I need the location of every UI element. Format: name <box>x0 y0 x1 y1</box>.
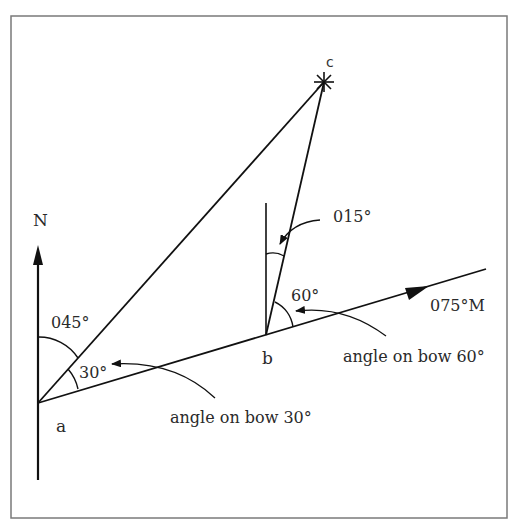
point-c-label: c <box>326 54 334 70</box>
bearing-015-label: 015° <box>333 207 372 226</box>
north-label: N <box>33 210 48 230</box>
course-arrowhead-icon <box>405 286 429 300</box>
angle-60-label: 60° <box>291 286 319 305</box>
target-star-icon <box>314 72 334 92</box>
course-label: 075°M <box>430 296 485 315</box>
arc-015-b <box>266 253 284 256</box>
pointer-015 <box>280 220 320 244</box>
north-arrowhead-icon <box>33 245 43 265</box>
navigation-diagram: N c a b 045° 30° 015° 60° 075°M angle on… <box>0 0 519 529</box>
point-b-label: b <box>262 348 273 368</box>
angle-on-bow-60-label: angle on bow 60° <box>343 347 485 366</box>
arc-045 <box>38 337 78 358</box>
angle-30-label: 30° <box>79 363 107 382</box>
arc-30-a <box>68 369 78 389</box>
diagram-frame <box>11 16 507 518</box>
pointer-angle-on-bow-60 <box>296 310 386 336</box>
point-a-label: a <box>56 416 66 436</box>
pointer-angle-on-bow-30 <box>112 364 215 398</box>
angle-on-bow-30-label: angle on bow 30° <box>170 408 312 427</box>
arc-60-b <box>275 302 293 327</box>
north-arrow <box>33 245 43 480</box>
bearing-045-label: 045° <box>51 313 90 332</box>
